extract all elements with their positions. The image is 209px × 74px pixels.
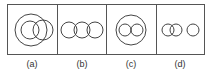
circle-inner [21,21,39,39]
label-b: (b) [77,59,88,69]
circle-outer [15,14,47,46]
circle-overlap-right [170,24,182,36]
label-a: (a) [27,59,38,69]
circle-right [87,22,103,38]
circle-inner-left [119,24,131,36]
circle-overlap [33,20,53,40]
circle-inner-right [131,24,143,36]
venn-diagram-options: (a) (b) (c) (d) [0,0,209,74]
circle-left [61,22,77,38]
circle-separate [187,24,199,36]
panel-d [162,24,199,36]
circle-middle [74,22,90,38]
label-d: (d) [175,59,186,69]
panel-b [61,22,103,38]
panel-c [116,15,146,45]
label-c: (c) [126,59,137,69]
panel-a [15,14,53,46]
